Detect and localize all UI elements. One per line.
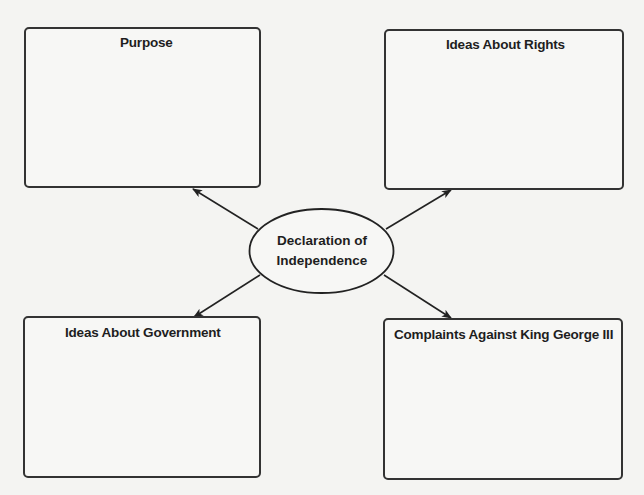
center-node-declaration: Declaration of Independence bbox=[249, 208, 395, 294]
purpose-box-title: Purpose bbox=[26, 35, 259, 50]
center-node-line-2: Independence bbox=[277, 251, 368, 271]
complaints-against-king-box-title: Complaints Against King George III bbox=[385, 327, 621, 342]
ideas-about-rights-box-title: Ideas About Rights bbox=[386, 37, 622, 52]
purpose-box[interactable]: Purpose bbox=[24, 27, 261, 188]
arrow-to-rights bbox=[386, 190, 451, 229]
complaints-against-king-box[interactable]: Complaints Against King George III bbox=[383, 318, 623, 480]
center-node-line-1: Declaration of bbox=[277, 231, 367, 251]
ideas-about-government-box[interactable]: Ideas About Government bbox=[23, 316, 261, 478]
ideas-about-rights-box[interactable]: Ideas About Rights bbox=[384, 29, 624, 190]
ideas-about-government-box-title: Ideas About Government bbox=[25, 325, 259, 340]
